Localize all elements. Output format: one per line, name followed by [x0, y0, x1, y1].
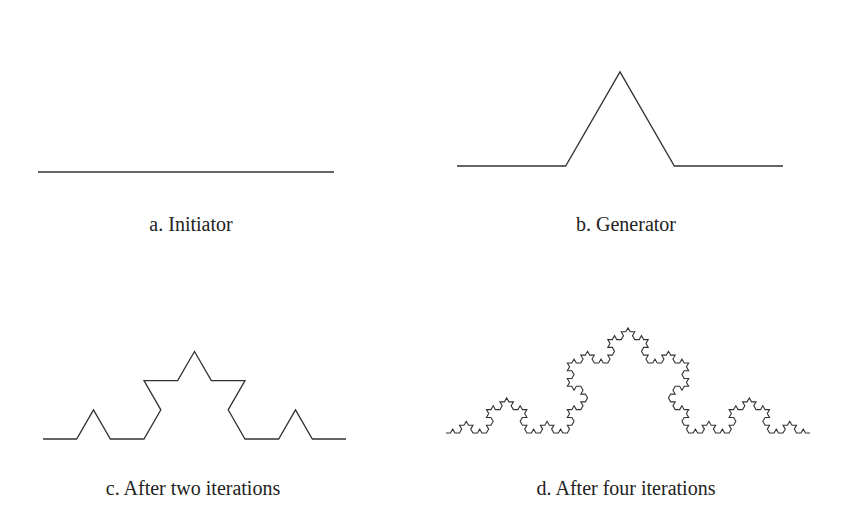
koch-curve-four-iterations — [446, 328, 810, 433]
koch-curve-figure: a. Initiator b. Generator c. After two i… — [0, 0, 841, 521]
caption-two-iterations: c. After two iterations — [106, 477, 280, 499]
caption-initiator: a. Initiator — [149, 213, 232, 235]
koch-curves-canvas — [0, 0, 841, 521]
koch-curve-two-iterations — [43, 352, 346, 439]
caption-generator: b. Generator — [576, 213, 676, 235]
caption-four-iterations: d. After four iterations — [537, 477, 716, 499]
generator-curve — [457, 72, 783, 166]
